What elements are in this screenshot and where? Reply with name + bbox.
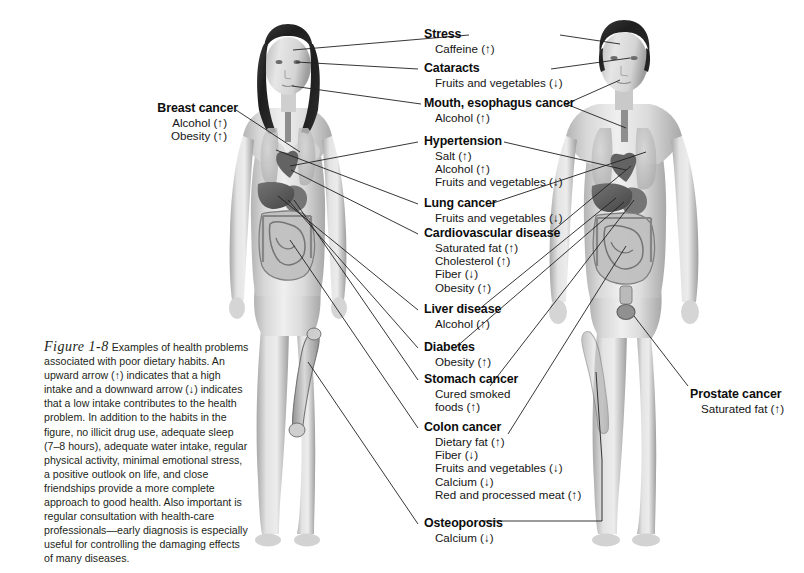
label-prostate-cancer[interactable]: Prostate cancer Saturated fat (↑) xyxy=(690,388,784,415)
label-item: Obesity (↑) xyxy=(424,355,491,368)
label-item: Alcohol (↑) xyxy=(424,317,501,330)
label-title: Prostate cancer xyxy=(690,388,784,402)
label-item: Alcohol (↑) xyxy=(424,111,575,124)
label-item: Cured smoked xyxy=(424,387,518,400)
label-title: Lung cancer xyxy=(424,197,563,211)
label-osteoporosis[interactable]: Osteoporosis Calcium (↓) xyxy=(424,517,503,544)
label-title: Mouth, esophagus cancer xyxy=(424,97,575,111)
label-item: Dietary fat (↑) xyxy=(424,435,581,448)
label-item: Calcium (↓) xyxy=(424,531,503,544)
label-mouth-esophagus-cancer[interactable]: Mouth, esophagus cancer Alcohol (↑) xyxy=(424,97,575,124)
label-diabetes[interactable]: Diabetes Obesity (↑) xyxy=(424,341,491,368)
label-breast-cancer[interactable]: Breast cancer Alcohol (↑) Obesity (↑) xyxy=(90,102,238,142)
label-title: Cardiovascular disease xyxy=(424,227,560,241)
label-item: Fiber (↓) xyxy=(424,448,581,461)
label-stress[interactable]: Stress Caffeine (↑) xyxy=(424,28,495,55)
label-item: Obesity (↑) xyxy=(90,129,238,142)
label-item: Caffeine (↑) xyxy=(424,42,495,55)
label-item: Fiber (↓) xyxy=(424,267,560,280)
figure-number: Figure 1-8 xyxy=(44,339,109,354)
label-title: Cataracts xyxy=(424,62,563,76)
label-item: Fruits and vegetables (↓) xyxy=(424,76,563,89)
label-cardiovascular-disease[interactable]: Cardiovascular disease Saturated fat (↑)… xyxy=(424,227,560,294)
label-item: Obesity (↑) xyxy=(424,281,560,294)
label-title: Colon cancer xyxy=(424,421,581,435)
label-title: Osteoporosis xyxy=(424,517,503,531)
label-item: Salt (↑) xyxy=(424,149,563,162)
label-item: Red and processed meat (↑) xyxy=(424,488,581,501)
label-title: Hypertension xyxy=(424,135,563,149)
label-stomach-cancer[interactable]: Stomach cancer Cured smoked foods (↑) xyxy=(424,373,518,413)
figure-container: Breast cancer Alcohol (↑) Obesity (↑) St… xyxy=(0,0,804,573)
label-item: foods (↑) xyxy=(424,400,518,413)
label-colon-cancer[interactable]: Colon cancer Dietary fat (↑) Fiber (↓) F… xyxy=(424,421,581,502)
label-liver-disease[interactable]: Liver disease Alcohol (↑) xyxy=(424,303,501,330)
figure-caption-text: Examples of health problems associated w… xyxy=(44,341,248,564)
label-item: Calcium (↓) xyxy=(424,475,581,488)
label-hypertension[interactable]: Hypertension Salt (↑) Alcohol (↑) Fruits… xyxy=(424,135,563,189)
label-item: Saturated fat (↑) xyxy=(424,241,560,254)
label-item: Fruits and vegetables (↓) xyxy=(424,175,563,188)
label-title: Liver disease xyxy=(424,303,501,317)
label-item: Fruits and vegetables (↓) xyxy=(424,211,563,224)
label-item: Saturated fat (↑) xyxy=(690,402,784,415)
figure-caption: Figure 1-8 Examples of health problems a… xyxy=(44,340,250,566)
label-item: Alcohol (↑) xyxy=(90,116,238,129)
label-item: Cholesterol (↑) xyxy=(424,254,560,267)
label-title: Diabetes xyxy=(424,341,491,355)
label-title: Stomach cancer xyxy=(424,373,518,387)
label-item: Alcohol (↑) xyxy=(424,162,563,175)
label-title: Breast cancer xyxy=(90,102,238,116)
label-title: Stress xyxy=(424,28,495,42)
label-item: Fruits and vegetables (↓) xyxy=(424,461,581,474)
label-cataracts[interactable]: Cataracts Fruits and vegetables (↓) xyxy=(424,62,563,89)
label-lung-cancer[interactable]: Lung cancer Fruits and vegetables (↓) xyxy=(424,197,563,224)
